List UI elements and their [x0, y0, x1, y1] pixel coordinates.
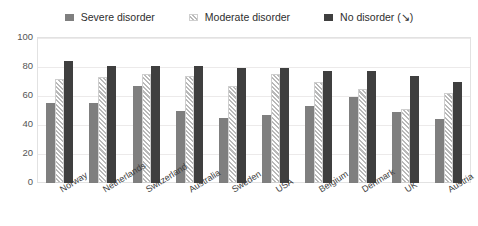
x-axis-cell: Australia: [168, 184, 211, 226]
bar[interactable]: [401, 109, 410, 183]
legend-label-no-disorder: No disorder (↘): [340, 12, 413, 23]
bar[interactable]: [349, 97, 358, 183]
legend-swatch-severe-icon: [65, 14, 74, 21]
legend-item-moderate-disorder[interactable]: Moderate disorder: [189, 12, 290, 23]
bar[interactable]: [64, 61, 73, 183]
bar[interactable]: [323, 71, 332, 183]
x-axis-cell: Switzerland: [124, 184, 167, 226]
bar[interactable]: [314, 82, 323, 184]
x-axis-cell: UK: [384, 184, 427, 226]
bar[interactable]: [453, 82, 462, 184]
chart-legend: Severe disorder Moderate disorder No dis…: [0, 7, 478, 27]
x-axis-cell: Austria: [427, 184, 470, 226]
x-axis-cell: Sweden: [211, 184, 254, 226]
bar[interactable]: [435, 119, 444, 183]
bar[interactable]: [107, 66, 116, 183]
bars-layer: [38, 38, 470, 183]
legend-swatch-moderate-icon: [189, 14, 198, 21]
bar[interactable]: [55, 79, 64, 183]
bar-group: [168, 38, 211, 183]
bar[interactable]: [444, 93, 453, 183]
bar-group: [211, 38, 254, 183]
bar[interactable]: [305, 106, 314, 183]
bar[interactable]: [228, 86, 237, 183]
y-axis-tick-label: 80: [0, 61, 33, 71]
y-axis-tick-label: 20: [0, 148, 33, 158]
bar-group: [81, 38, 124, 183]
legend-swatch-no-disorder-icon: [324, 14, 333, 21]
bar-group: [384, 38, 427, 183]
bar[interactable]: [358, 89, 367, 183]
legend-label-severe: Severe disorder: [81, 12, 155, 23]
y-axis-tick-label: 40: [0, 119, 33, 129]
x-axis-cell: Norway: [38, 184, 81, 226]
bar[interactable]: [280, 68, 289, 183]
bar[interactable]: [194, 66, 203, 183]
y-axis: 020406080100: [0, 37, 33, 183]
bar[interactable]: [89, 103, 98, 183]
x-axis-cell: USA: [254, 184, 297, 226]
bar[interactable]: [367, 71, 376, 183]
bar-group: [38, 38, 81, 183]
legend-item-no-disorder[interactable]: No disorder (↘): [324, 12, 413, 23]
legend-item-severe-disorder[interactable]: Severe disorder: [65, 12, 155, 23]
bar[interactable]: [271, 74, 280, 183]
x-axis: NorwayNetherlandsSwitzerlandAustraliaSwe…: [38, 184, 470, 226]
bar-group: [254, 38, 297, 183]
x-axis-cell: Netherlands: [81, 184, 124, 226]
x-axis-cell: Denmark: [340, 184, 383, 226]
bar[interactable]: [410, 76, 419, 183]
y-axis-tick-label: 100: [0, 32, 33, 42]
legend-label-moderate: Moderate disorder: [205, 12, 290, 23]
bar[interactable]: [237, 68, 246, 183]
bar-group: [124, 38, 167, 183]
bar-chart: Severe disorder Moderate disorder No dis…: [0, 0, 478, 226]
bar[interactable]: [98, 77, 107, 183]
bar-group: [427, 38, 470, 183]
y-axis-tick-label: 60: [0, 90, 33, 100]
x-axis-cell: Belgium: [297, 184, 340, 226]
bar[interactable]: [151, 66, 160, 183]
bar[interactable]: [46, 103, 55, 183]
bar-group: [340, 38, 383, 183]
bar-group: [297, 38, 340, 183]
y-axis-tick-label: 0: [0, 177, 33, 187]
bar[interactable]: [262, 115, 271, 183]
